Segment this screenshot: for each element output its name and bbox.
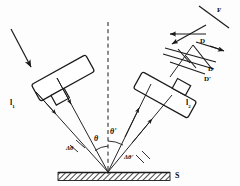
theta-arc bbox=[95, 146, 108, 151]
grating-cross-1 bbox=[186, 56, 196, 68]
detector-d-label: D bbox=[208, 66, 213, 73]
diagram-canvas bbox=[0, 0, 240, 186]
sample-label: S bbox=[175, 172, 179, 180]
angle-theta-label: θ bbox=[94, 135, 98, 143]
optics-ray-diagram: l1 l2 θ θ' Δθ Δθ' S F D D D' bbox=[0, 0, 240, 186]
incident-beam-arrow bbox=[11, 29, 31, 67]
collimator-left-label: l1 bbox=[10, 99, 15, 110]
angle-delta-theta-label: Δθ bbox=[66, 145, 73, 152]
detector-d-upper-label: D bbox=[200, 38, 205, 45]
beam-line-5 bbox=[170, 62, 205, 74]
right-collimator-rectangle bbox=[133, 72, 196, 119]
reflected-ray-outer-arrow bbox=[132, 119, 152, 143]
parallel-beam-grating-lines bbox=[163, 6, 229, 74]
reflected-ray-inner-arrow bbox=[125, 108, 139, 137]
right-collimator-group bbox=[133, 72, 196, 119]
collimator-right-label: l2 bbox=[186, 99, 191, 110]
sample-surface-group bbox=[58, 173, 170, 181]
beam-arrow-2 bbox=[210, 46, 224, 51]
hatched-sample-surface bbox=[58, 173, 170, 181]
angle-theta-prime-label: θ' bbox=[110, 128, 116, 136]
angle-delta-theta-prime-label: Δθ' bbox=[124, 154, 133, 161]
detector-d-prime-label: D' bbox=[204, 76, 211, 83]
detector-f-label: F bbox=[217, 7, 221, 14]
grating-line-f bbox=[199, 6, 229, 28]
theta-prime-arc bbox=[108, 141, 123, 145]
delta-theta-prime-tick2 bbox=[136, 155, 144, 163]
delta-theta-prime-tick bbox=[142, 151, 150, 159]
beam-line-3 bbox=[165, 48, 216, 62]
